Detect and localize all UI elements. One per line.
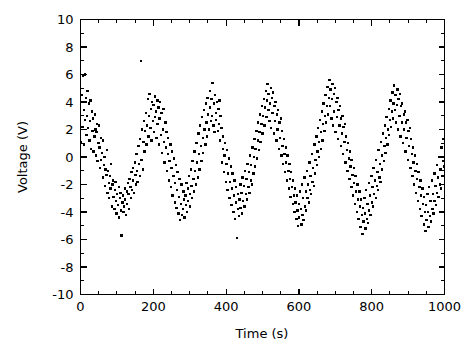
y-tick-label: 10 <box>57 12 74 27</box>
y-tick-label: 2 <box>65 122 73 137</box>
y-tick-label: -6 <box>61 232 74 247</box>
y-tick-label: -10 <box>52 287 73 302</box>
y-tick-label: 8 <box>65 40 73 55</box>
y-tick-label: -2 <box>61 177 74 192</box>
x-tick-label: 800 <box>359 299 384 314</box>
x-tick-label: 1000 <box>428 299 461 314</box>
y-tick-label: 0 <box>65 150 73 165</box>
y-tick-label: -4 <box>61 205 74 220</box>
y-axis-title: Voltage (V) <box>15 121 30 193</box>
x-axis-title: Time (s) <box>235 326 289 341</box>
y-tick-label: 4 <box>65 95 73 110</box>
x-tick-label: 400 <box>214 299 239 314</box>
y-tick-label: -8 <box>61 260 74 275</box>
scatter-plot-figure: 02004006008001000 -10-8-6-4-20246810 Tim… <box>0 0 471 353</box>
plot-canvas: 02004006008001000 -10-8-6-4-20246810 Tim… <box>0 0 471 353</box>
x-tick-label: 200 <box>141 299 166 314</box>
x-tick-label: 600 <box>286 299 311 314</box>
x-tick-label: 0 <box>76 299 84 314</box>
y-tick-label: 6 <box>65 67 73 82</box>
